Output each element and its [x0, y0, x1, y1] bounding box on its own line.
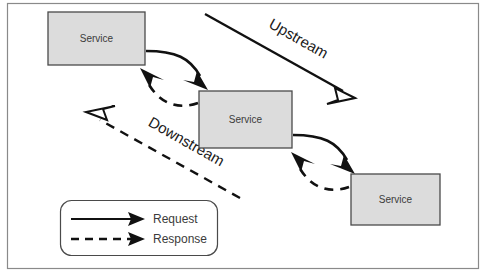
service-node-3[interactable]: Service — [351, 174, 440, 225]
service-label-3: Service — [379, 194, 413, 205]
legend-response-label: Response — [153, 232, 207, 246]
request-curve-1 — [146, 51, 200, 76]
downstream-arrowhead-icon — [86, 106, 115, 120]
response-connection-1 — [140, 68, 198, 106]
response-arrowhead-icon-1 — [140, 68, 164, 88]
request-curve-2 — [293, 135, 347, 160]
request-arrowhead-icon-1 — [183, 71, 208, 90]
response-curve-2 — [299, 167, 349, 190]
service-label-2: Service — [229, 114, 263, 125]
legend-container — [61, 201, 218, 256]
request-arrowhead-icon-2 — [330, 155, 355, 174]
response-curve-1 — [148, 83, 198, 106]
service-node-2[interactable]: Service — [199, 91, 292, 148]
response-connection-2 — [291, 152, 349, 190]
request-connection-1 — [146, 51, 208, 90]
response-arrowhead-icon-2 — [291, 152, 315, 172]
upstream-arrowhead-icon — [327, 88, 355, 104]
legend-request-label: Request — [153, 212, 198, 226]
service-node-1[interactable]: Service — [48, 12, 145, 65]
diagram-canvas: Upstream Downstream Servi — [0, 0, 488, 279]
service-label-1: Service — [80, 33, 114, 44]
service-flow-diagram: Upstream Downstream Servi — [0, 0, 488, 279]
legend: Request Response — [61, 201, 218, 256]
request-connection-2 — [293, 135, 355, 174]
